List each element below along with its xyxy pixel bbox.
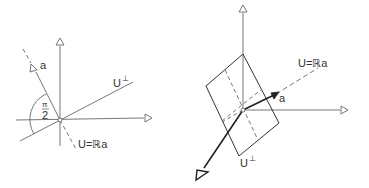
x-axis-arrow-icon	[196, 170, 208, 180]
u-line-label: U=ℝa	[298, 57, 328, 69]
diagram-canvas: a π 2 U=ℝa U ⊥ a U=ℝa U ⊥	[0, 0, 369, 188]
angle-numerator: π	[42, 100, 48, 109]
y-axis-arrow-icon	[56, 38, 64, 45]
u-perp-line	[20, 82, 133, 141]
vector-a-label: a	[40, 59, 47, 71]
vector-a-arrow-icon	[271, 92, 279, 99]
u-line-label: U=ℝa	[78, 138, 108, 150]
z-axis-arrow-icon	[239, 5, 247, 12]
angle-denominator: 2	[42, 109, 48, 121]
x-axis	[16, 118, 144, 120]
u-perp-plane	[206, 54, 279, 156]
y-axis-arrow-icon	[341, 106, 348, 114]
u-line-dashed	[276, 68, 318, 94]
right-figure	[196, 5, 348, 180]
left-figure	[16, 38, 152, 149]
u-perp-label: U	[240, 157, 248, 169]
x-axis	[204, 110, 243, 168]
u-line-dashed-top	[23, 49, 31, 63]
u-perp-label: U	[113, 77, 121, 89]
plane-midline-2	[222, 89, 262, 121]
origin-point	[241, 108, 245, 112]
perp-symbol: ⊥	[122, 74, 129, 83]
x-axis-arrow-icon	[145, 114, 152, 122]
origin-point	[58, 118, 62, 122]
vector-a-label: a	[279, 92, 286, 104]
perp-symbol: ⊥	[249, 154, 256, 163]
u-line-dashed-bottom	[60, 120, 76, 149]
vector-a-shaft	[243, 95, 274, 110]
vector-a-arrow-icon	[30, 64, 37, 72]
